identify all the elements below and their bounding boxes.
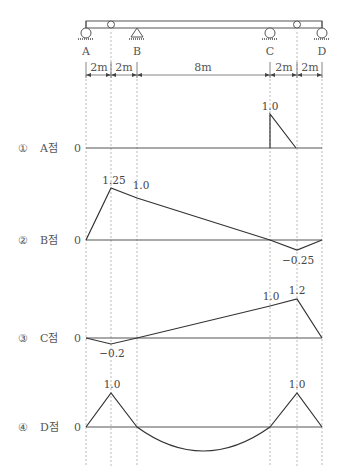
value-label: 1.0: [133, 179, 150, 191]
value-label: 1.0: [104, 378, 121, 390]
support-label-b: B: [133, 45, 141, 58]
diagram-number: ③: [18, 332, 28, 345]
zero-label: 0: [74, 421, 81, 434]
influence-line-diagram: A B C D 2m 2m 8m 2m 2m ① A점 0 1.0 ② B점: [0, 0, 349, 469]
value-label: −0.25: [282, 254, 314, 266]
value-label: 1.0: [262, 100, 279, 112]
zero-label: 0: [74, 142, 81, 155]
diagram-title: D점: [40, 421, 59, 434]
value-label: 1.0: [289, 378, 306, 390]
diagram-number: ④: [18, 421, 28, 434]
span-label: 2m: [301, 61, 319, 74]
pin-support-icon: [131, 28, 143, 37]
guide-lines: [86, 32, 322, 466]
value-label: 1.0: [263, 290, 280, 302]
span-label: 8m: [194, 61, 212, 74]
span-label: 2m: [275, 61, 293, 74]
hinge-icon: [294, 21, 301, 28]
span-label: 2m: [90, 61, 108, 74]
influence-line-b: ② B점 0 1.25 1.0 −0.25: [18, 174, 322, 266]
influence-line-c: ③ C점 0 −0.2 1.0 1.2: [18, 284, 322, 359]
roller-support-icon: [265, 28, 275, 38]
diagram-title: C점: [40, 332, 58, 345]
hinge-icon: [108, 21, 115, 28]
diagram-title: B점: [40, 234, 58, 247]
value-label: 1.25: [102, 174, 125, 186]
roller-support-icon: [317, 28, 327, 38]
roller-support-icon: [81, 28, 91, 38]
influence-line-a: ① A점 0 1.0: [18, 100, 322, 155]
support-label-c: C: [266, 45, 274, 58]
influence-line-d: ④ D점 0 1.0 1.0: [18, 378, 322, 451]
support-label-d: D: [318, 45, 327, 58]
diagram-title: A점: [39, 142, 58, 155]
diagram-number: ①: [18, 142, 28, 155]
value-label: −0.2: [99, 347, 125, 359]
support-label-a: A: [81, 45, 91, 58]
value-label: 1.2: [289, 284, 306, 296]
zero-label: 0: [74, 332, 81, 345]
beam: [78, 21, 330, 39]
zero-label: 0: [74, 234, 81, 247]
span-label: 2m: [115, 61, 133, 74]
diagram-number: ②: [18, 234, 28, 247]
